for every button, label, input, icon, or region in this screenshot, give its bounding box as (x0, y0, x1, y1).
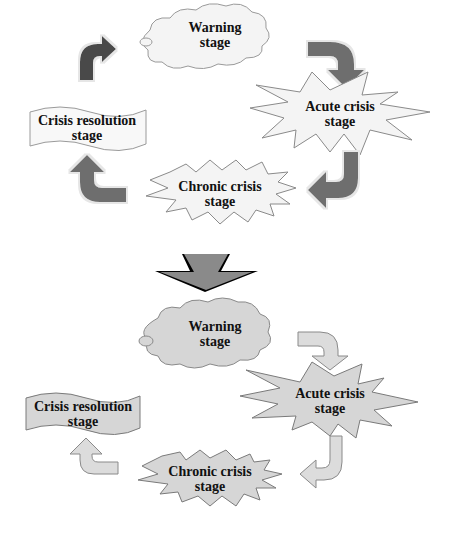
bottom-arrow-warning-to-acute (298, 332, 348, 370)
bottom-arrow-acute-to-chronic (300, 436, 342, 488)
bottom-warning-label: Warning stage (165, 319, 265, 349)
bottom-chronic-line1: Chronic crisis (150, 464, 270, 479)
bottom-resolution-line1: Crisis resolution (18, 399, 148, 414)
bottom-acute-line1: Acute crisis (270, 386, 390, 401)
bottom-chronic-label: Chronic crisis stage (150, 464, 270, 494)
top-arrow-resolution-to-warning (80, 36, 116, 80)
top-chronic-label: Chronic crisis stage (160, 179, 280, 209)
bottom-resolution-label: Crisis resolution stage (18, 399, 148, 429)
top-warning-label: Warning stage (160, 20, 270, 50)
top-acute-line2: stage (280, 114, 400, 129)
top-chronic-line2: stage (160, 194, 280, 209)
top-arrow-acute-to-chronic (308, 152, 358, 208)
crisis-stages-diagram (0, 0, 455, 536)
bottom-resolution-line2: stage (18, 414, 148, 429)
top-resolution-line1: Crisis resolution (22, 113, 152, 128)
bottom-acute-label: Acute crisis stage (270, 386, 390, 416)
bottom-arrow-chronic-to-resolution (70, 438, 118, 474)
top-arrow-chronic-to-resolution (70, 155, 126, 202)
bottom-warning-line2: stage (165, 334, 265, 349)
top-resolution-line2: stage (22, 128, 152, 143)
top-resolution-label: Crisis resolution stage (22, 113, 152, 143)
top-acute-line1: Acute crisis (280, 99, 400, 114)
bottom-acute-line2: stage (270, 401, 390, 416)
bottom-warning-line1: Warning (165, 319, 265, 334)
bottom-chronic-line2: stage (150, 479, 270, 494)
top-chronic-line1: Chronic crisis (160, 179, 280, 194)
top-acute-label: Acute crisis stage (280, 99, 400, 129)
transition-down-arrow (155, 254, 258, 292)
top-warning-line1: Warning (160, 20, 270, 35)
top-warning-line2: stage (160, 35, 270, 50)
